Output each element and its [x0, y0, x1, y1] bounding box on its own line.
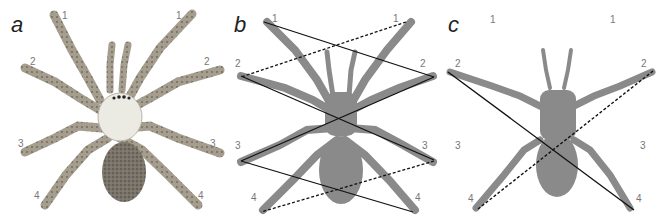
leg-label-right-2: 2 [204, 56, 210, 67]
leg-label-right-3: 3 [640, 140, 646, 151]
leg-label-right-4: 4 [636, 193, 642, 204]
panel-b: b 1 1 2 2 3 3 4 4 [225, 0, 440, 224]
leg-label-right-2: 2 [420, 58, 426, 69]
leg-label-right-2: 2 [641, 58, 647, 69]
leg-label-left-4: 4 [468, 193, 474, 204]
spider-silhouette-b [225, 0, 440, 224]
leg-label-right-1: 1 [393, 13, 399, 24]
leg-label-left-3: 3 [18, 138, 24, 149]
panel-c: c 1 1 2 2 3 3 4 4 [440, 0, 657, 224]
panel-a: a [0, 0, 225, 224]
leg-label-left-2: 2 [455, 58, 461, 69]
leg-label-left-1: 1 [272, 13, 278, 24]
leg-label-left-3: 3 [235, 140, 241, 151]
leg-label-left-1: 1 [62, 10, 68, 21]
leg-label-left-1: 1 [490, 14, 496, 25]
leg-label-right-1: 1 [176, 10, 182, 21]
leg-label-right-1: 1 [610, 14, 616, 25]
leg-label-right-3: 3 [210, 138, 216, 149]
leg-label-right-3: 3 [422, 140, 428, 151]
leg-label-left-4: 4 [34, 190, 40, 201]
leg-label-left-3: 3 [455, 140, 461, 151]
spider-silhouette-c [440, 0, 657, 224]
leg-label-left-2: 2 [30, 56, 36, 67]
leg-label-left-2: 2 [235, 58, 241, 69]
leg-label-right-4: 4 [198, 190, 204, 201]
leg-label-left-4: 4 [251, 192, 257, 203]
leg-label-right-4: 4 [415, 192, 421, 203]
